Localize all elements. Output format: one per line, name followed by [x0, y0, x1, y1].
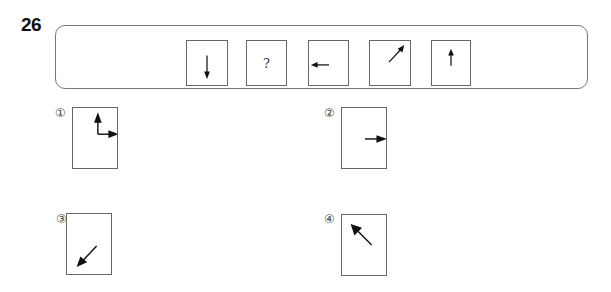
arrow-down-icon [187, 41, 227, 85]
option-4-label: ④ [324, 212, 335, 226]
unknown-mark: ? [247, 41, 286, 85]
sequence-cell-1 [186, 40, 228, 86]
arrow-up-left-icon [342, 215, 386, 275]
option-1-label: ① [55, 106, 66, 120]
option-2-box[interactable] [341, 107, 387, 169]
sequence-cell-4 [369, 40, 411, 86]
arrow-up-icon [432, 41, 470, 85]
option-4-box[interactable] [341, 214, 387, 276]
arrow-left-icon [309, 41, 348, 85]
sequence-cell-3 [308, 40, 349, 86]
arrow-down-left-icon [67, 214, 111, 274]
option-3-box[interactable] [66, 213, 112, 275]
sequence-cell-2: ? [246, 40, 287, 86]
arrow-up-right-icon [370, 41, 410, 85]
sequence-cell-5 [431, 40, 471, 86]
option-1-box[interactable] [72, 107, 118, 169]
question-number: 26 [21, 14, 41, 36]
option-2-label: ② [324, 106, 335, 120]
arrow-right-icon [342, 108, 386, 168]
arrow-up-right-corner-icon [73, 108, 117, 168]
